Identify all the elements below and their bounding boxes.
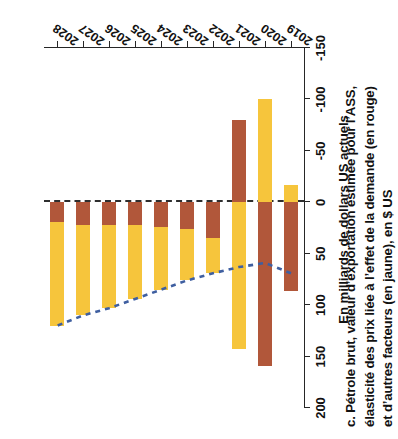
value-axis-tick-label: 50 <box>313 246 328 260</box>
value-axis-tick <box>304 98 310 99</box>
value-axis-line <box>304 48 305 408</box>
value-axis-tick <box>304 304 310 305</box>
value-axis-tick <box>304 201 310 202</box>
value-axis-title: En milliards de dollars US actuels <box>336 0 351 439</box>
value-axis-tick <box>304 356 310 357</box>
value-axis-tick-label: -100 <box>313 86 328 112</box>
value-axis-tick-label: -150 <box>313 35 328 61</box>
figure-title-line-2: élasticité des prix liée à l’effet de la… <box>361 12 380 427</box>
value-axis-tick-label: 200 <box>313 397 328 419</box>
figure-title-line-3: et d’autres facteurs (en jaune), en $ US <box>379 12 398 427</box>
value-axis-tick <box>304 253 310 254</box>
value-axis-tick-label: 100 <box>313 294 328 316</box>
value-axis-tick-label: 0 <box>313 199 328 206</box>
value-axis-tick <box>304 407 310 408</box>
value-axis-tick-label: 150 <box>313 346 328 368</box>
value-axis-tick-label: -50 <box>313 141 328 160</box>
total-trend-line <box>44 0 304 439</box>
plot-area: 200150100500-50-100-15020192020202120222… <box>44 0 304 439</box>
value-axis-tick <box>304 150 310 151</box>
